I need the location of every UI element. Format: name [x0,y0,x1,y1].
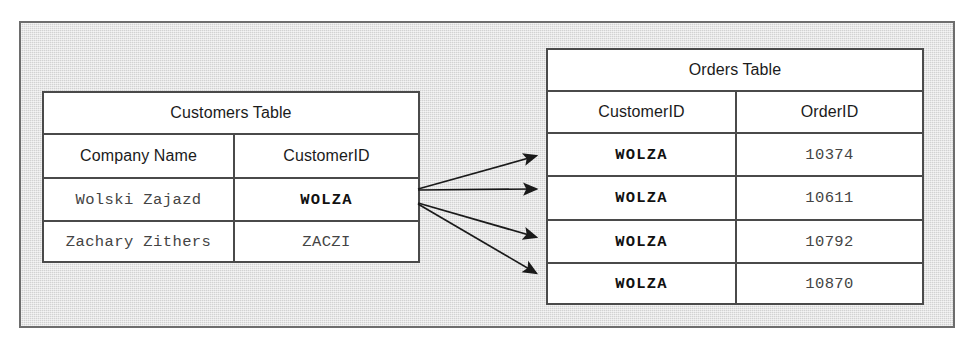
orders-cell-order-id-1: 10374 [737,134,922,175]
orders-cell-customer-id-4: WOLZA [548,264,737,303]
orders-table-title: Orders Table [548,50,922,90]
orders-table-header-row: CustomerID OrderID [548,92,922,134]
customers-table-title-row: Customers Table [44,93,418,135]
table-row: WOLZA 10792 [548,221,922,264]
orders-table-title-row: Orders Table [548,50,922,92]
table-row: Zachary Zithers ZACZI [44,222,418,261]
orders-cell-order-id-2: 10611 [737,177,922,219]
table-row: WOLZA 10611 [548,177,922,221]
orders-cell-customer-id-3: WOLZA [548,221,737,262]
orders-table: Orders Table CustomerID OrderID WOLZA 10… [546,48,924,305]
orders-header-customer-id: CustomerID [548,92,737,132]
table-row: WOLZA 10870 [548,264,922,303]
customers-table-title: Customers Table [44,93,418,133]
orders-cell-customer-id-2: WOLZA [548,177,737,219]
customers-table: Customers Table Company Name CustomerID … [42,91,420,263]
table-row: WOLZA 10374 [548,134,922,177]
orders-cell-order-id-3: 10792 [737,221,922,262]
table-row: Wolski Zajazd WOLZA [44,179,418,222]
customers-header-customer-id: CustomerID [235,135,418,177]
customers-cell-customer-id-2: ZACZI [235,222,418,261]
customers-header-company-name: Company Name [44,135,235,177]
diagram-panel: Customers Table Company Name CustomerID … [19,21,955,328]
customers-table-header-row: Company Name CustomerID [44,135,418,179]
orders-cell-customer-id-1: WOLZA [548,134,737,175]
customers-cell-company-name-1: Wolski Zajazd [44,179,235,220]
customers-cell-company-name-2: Zachary Zithers [44,222,235,261]
orders-header-order-id: OrderID [737,92,922,132]
orders-cell-order-id-4: 10870 [737,264,922,303]
diagram-canvas: Customers Table Company Name CustomerID … [0,0,974,343]
customers-cell-customer-id-1: WOLZA [235,179,418,220]
